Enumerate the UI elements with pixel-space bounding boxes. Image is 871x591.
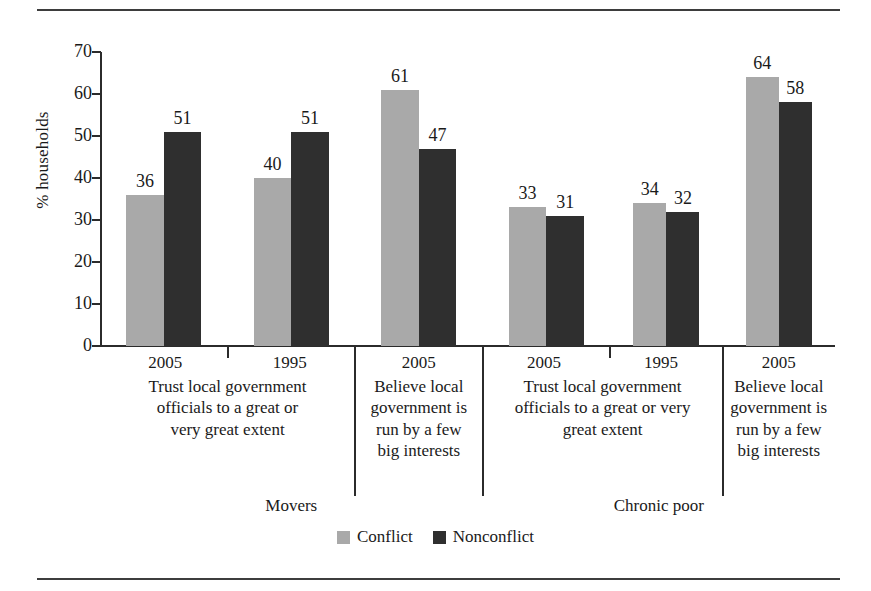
bar-conflict — [633, 203, 666, 346]
legend-swatch-icon — [433, 531, 446, 544]
legend-item: Conflict — [337, 527, 413, 547]
x-axis-group-1: 20051995Trust local governmentofficials … — [103, 352, 352, 440]
x-axis-caption-line: government is — [358, 397, 480, 419]
legend-swatch-icon — [337, 531, 350, 544]
x-axis-caption: Believe localgovernment isrun by a fewbi… — [358, 376, 480, 462]
x-axis-group-4: 2005Believe localgovernment isrun by a f… — [726, 352, 832, 462]
legend-label: Conflict — [357, 527, 413, 547]
x-axis-caption-line: officials to a great or very — [486, 397, 720, 419]
x-axis-year-label: 2005 — [486, 352, 603, 374]
bar-value-label: 51 — [158, 109, 208, 127]
x-axis-year-label: 1995 — [603, 352, 720, 374]
legend-item: Nonconflict — [433, 527, 534, 547]
bar-nonconflict — [779, 102, 812, 346]
x-axis-caption-line: Believe local — [726, 376, 832, 398]
bar-nonconflict — [666, 212, 699, 346]
x-axis-caption: Believe localgovernment isrun by a fewbi… — [726, 376, 832, 462]
y-axis-label: % households — [33, 90, 53, 230]
x-axis-caption-line: officials to a great or — [103, 397, 352, 419]
x-axis-caption-line: government is — [726, 397, 832, 419]
x-axis-year-row: 20051995 — [486, 352, 720, 374]
x-axis-year-label: 2005 — [762, 353, 796, 372]
x-axis-caption-line: run by a few — [358, 419, 480, 441]
x-axis-group-separator — [482, 346, 484, 496]
x-axis-year-row: 20051995 — [103, 352, 352, 374]
bar-value-label: 61 — [375, 67, 425, 85]
figure-container: % households 706050403020100 36514051614… — [0, 0, 871, 591]
bars-layer: 365140516147333134326458 — [100, 52, 835, 346]
x-axis-year-label: 2005 — [103, 352, 228, 374]
supergroup-label: Movers — [100, 496, 483, 516]
y-axis-tick-label: 20 — [52, 252, 92, 270]
bar-chart: % households 706050403020100 36514051614… — [0, 0, 871, 591]
x-axis-caption-line: Trust local government — [486, 376, 720, 398]
x-axis-caption-line: big interests — [358, 440, 480, 462]
legend-label: Nonconflict — [453, 527, 534, 547]
x-axis-year-row: 2005 — [358, 352, 480, 374]
y-axis-tick-label: 50 — [52, 126, 92, 144]
x-axis-group-2: 2005Believe localgovernment isrun by a f… — [358, 352, 480, 462]
bar-value-label: 64 — [740, 54, 785, 72]
bar-value-label: 36 — [120, 172, 170, 190]
supergroup-label: Chronic poor — [483, 496, 835, 516]
x-axis-caption-line: Believe local — [358, 376, 480, 398]
x-axis-caption-line: very great extent — [103, 419, 352, 441]
y-axis-tick-label: 30 — [52, 210, 92, 228]
chart-legend: ConflictNonconflict — [0, 527, 871, 547]
x-axis-caption: Trust local governmentofficials to a gre… — [486, 376, 720, 441]
y-axis-tick-label: 10 — [52, 294, 92, 312]
x-axis-caption-line: Trust local government — [103, 376, 352, 398]
x-axis-group-separator — [354, 346, 356, 496]
bar-conflict — [509, 207, 547, 346]
x-axis-caption-line: big interests — [726, 440, 832, 462]
x-axis-caption-line: run by a few — [726, 419, 832, 441]
x-axis-group-separator — [722, 346, 724, 496]
y-axis-tick-label: 70 — [52, 42, 92, 60]
x-axis-caption: Trust local governmentofficials to a gre… — [103, 376, 352, 441]
bar-value-label: 40 — [248, 155, 298, 173]
y-axis-tick-label: 0 — [52, 336, 92, 354]
y-axis-tick-label: 40 — [52, 168, 92, 186]
bar-value-label: 58 — [773, 79, 818, 97]
x-axis-year-label: 2005 — [402, 353, 436, 372]
bar-value-label: 31 — [540, 193, 590, 211]
bar-nonconflict — [546, 216, 584, 346]
x-axis-year-row: 2005 — [726, 352, 832, 374]
bar-value-label: 47 — [413, 126, 463, 144]
x-axis-year-label: 1995 — [228, 352, 353, 374]
bar-nonconflict — [291, 132, 329, 346]
bar-value-label: 51 — [285, 109, 335, 127]
bar-nonconflict — [419, 149, 457, 346]
x-axis-group-3: 20051995Trust local governmentofficials … — [486, 352, 720, 440]
bar-conflict — [126, 195, 164, 346]
y-axis-tick-label: 60 — [52, 84, 92, 102]
x-axis-caption-line: great extent — [486, 419, 720, 441]
bar-value-label: 32 — [660, 189, 705, 207]
bar-nonconflict — [164, 132, 202, 346]
bar-conflict — [746, 77, 779, 346]
bar-conflict — [254, 178, 292, 346]
